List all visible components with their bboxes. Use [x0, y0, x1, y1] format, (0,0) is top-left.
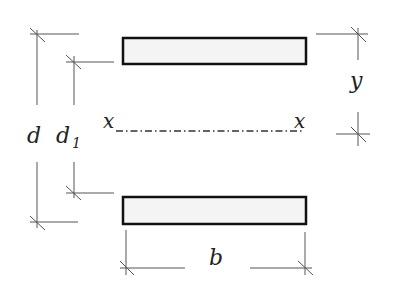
bottom-plate [123, 197, 306, 224]
diagram-canvas: d d 1 x x y b [0, 0, 394, 283]
d1-subscript: 1 [72, 135, 81, 151]
x-left-label: x [103, 109, 114, 133]
x-right-label: x [294, 109, 305, 133]
d1-label: d [56, 123, 70, 148]
section-diagram: d d 1 x x y b [0, 0, 394, 283]
top-plate [123, 38, 306, 64]
y-label: y [349, 68, 363, 93]
b-label: b [209, 245, 223, 270]
d-label: d [27, 123, 41, 148]
